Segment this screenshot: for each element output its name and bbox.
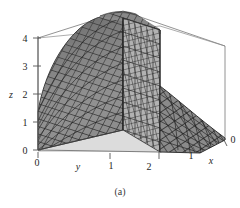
cutting-plane-y-equals-1 [123,18,160,152]
surface-plot-svg: 4 3 2 1 0 z 0 1 2 y 1 0 x (a) [0,0,240,208]
z-tick-label-3: 3 [23,61,28,72]
z-tick-label-2: 2 [23,89,28,100]
y-axis-label: y [75,161,81,172]
y-tick-label-0: 0 [35,157,40,168]
figure-caption: (a) [114,186,125,198]
z-tick-label-4: 4 [23,33,28,44]
x-tick-label-0: 0 [231,134,236,145]
z-tick-label-1: 1 [23,117,28,128]
y-tick-label-1: 1 [109,160,114,171]
x-axis-label: x [208,155,214,166]
z-tick-label-0: 0 [23,145,28,156]
y-tick-label-2: 2 [147,161,152,172]
figure-3d-surface-plot: 4 3 2 1 0 z 0 1 2 y 1 0 x (a) [0,0,240,208]
x-tick-label-1: 1 [189,150,194,161]
z-axis-label: z [8,89,13,100]
